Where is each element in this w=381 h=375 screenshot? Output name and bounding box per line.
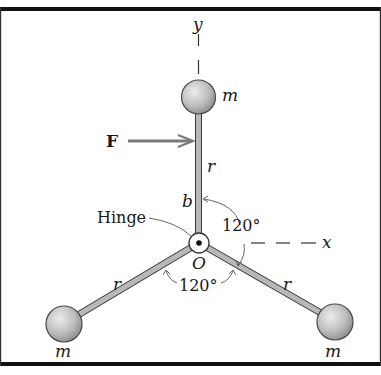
mass-top <box>182 80 216 114</box>
mass-left <box>46 306 82 342</box>
hinge-leader-line <box>149 218 191 236</box>
angle-lower-label: 120° <box>179 276 218 295</box>
mass-top-label: m <box>222 85 238 105</box>
mass-left-label: m <box>55 341 71 361</box>
rod-right-label: r <box>283 274 292 294</box>
rod-right <box>206 247 321 313</box>
origin-label: O <box>192 253 206 273</box>
angle-upper-label: 120° <box>222 216 261 235</box>
rod-top <box>196 113 202 235</box>
rod-top-label: r <box>207 156 216 176</box>
hinge-label: Hinge <box>97 208 146 227</box>
three-mass-rotor-diagram: y x m m m F r r r b Hinge O <box>0 0 381 375</box>
rod-left <box>78 247 192 315</box>
mass-right-label: m <box>325 341 341 361</box>
mass-right <box>317 304 353 340</box>
force-arrow-icon <box>128 135 193 147</box>
y-axis-label: y <box>192 14 203 34</box>
force-label: F <box>106 131 118 151</box>
distance-b-label: b <box>182 191 193 211</box>
hinge <box>189 233 209 253</box>
rod-left-label: r <box>113 274 122 294</box>
x-axis-label: x <box>322 232 332 252</box>
